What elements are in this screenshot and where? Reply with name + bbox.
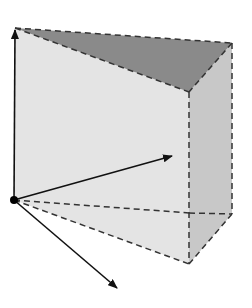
up-vector-arrow	[14, 30, 15, 200]
wedge-diagram	[0, 0, 252, 308]
origin-point	[10, 196, 18, 204]
